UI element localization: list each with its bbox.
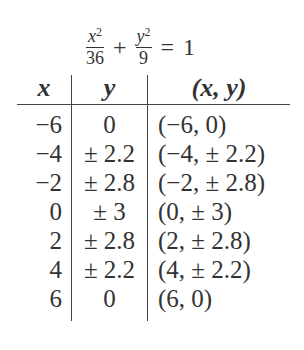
- equation-rhs: 1: [183, 34, 195, 61]
- exponent: 2: [96, 25, 102, 39]
- cell-point: (4, ± 2.2): [158, 255, 251, 284]
- numerator-y: y: [137, 26, 145, 46]
- table-row: −4± 2.2(−4, ± 2.2): [0, 139, 304, 168]
- cell-y: 0: [72, 110, 147, 139]
- cell-x: 0: [50, 197, 63, 226]
- fraction-x-term: x2 36: [86, 27, 104, 68]
- header-y: y: [72, 73, 147, 103]
- cell-point: (0, ± 3): [158, 197, 232, 226]
- header-divider: [17, 104, 290, 105]
- denominator-36: 36: [86, 49, 104, 68]
- plus-sign: +: [113, 34, 127, 61]
- denominator-9: 9: [139, 49, 148, 68]
- cell-y: ± 3: [72, 197, 147, 226]
- cell-x: 6: [50, 284, 63, 313]
- cell-x: 4: [50, 255, 63, 284]
- header-x: x: [17, 73, 71, 103]
- cell-point: (−6, 0): [158, 110, 226, 139]
- cell-point: (−2, ± 2.8): [158, 168, 265, 197]
- ellipse-equation: x2 36 + y2 9 = 1: [86, 25, 195, 69]
- cell-x: −2: [35, 168, 62, 197]
- table-row: 0± 3(0, ± 3): [0, 197, 304, 226]
- fraction-y-term: y2 9: [136, 27, 152, 68]
- header-point: (x, y): [148, 73, 290, 103]
- exponent: 2: [145, 25, 151, 39]
- cell-point: (6, 0): [158, 284, 212, 313]
- cell-y: 0: [72, 284, 147, 313]
- cell-y: ± 2.8: [72, 226, 147, 255]
- cell-x: −6: [35, 110, 62, 139]
- cell-x: −4: [35, 139, 62, 168]
- cell-point: (2, ± 2.8): [158, 226, 251, 255]
- numerator-x: x: [88, 26, 96, 46]
- table-row: −2± 2.8(−2, ± 2.8): [0, 168, 304, 197]
- table-row: 4± 2.2(4, ± 2.2): [0, 255, 304, 284]
- cell-y: ± 2.2: [72, 139, 147, 168]
- table-row: −60(−6, 0): [0, 110, 304, 139]
- table-row: 60(6, 0): [0, 284, 304, 313]
- cell-y: ± 2.2: [72, 255, 147, 284]
- table-row: 2± 2.8(2, ± 2.8): [0, 226, 304, 255]
- cell-y: ± 2.8: [72, 168, 147, 197]
- equals-sign: =: [161, 34, 175, 61]
- cell-point: (−4, ± 2.2): [158, 139, 265, 168]
- table-body: −60(−6, 0) −4± 2.2(−4, ± 2.2) −2± 2.8(−2…: [0, 110, 304, 313]
- cell-x: 2: [50, 226, 63, 255]
